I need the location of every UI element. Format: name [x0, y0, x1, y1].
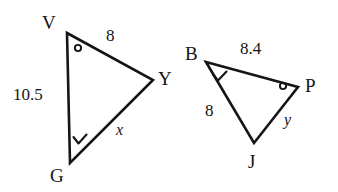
side-length-label-vy: 8 [106, 27, 115, 44]
vertex-label-j: J [248, 152, 255, 171]
triangle-bpj-outline [206, 62, 298, 143]
triangle-bpj-shape [206, 62, 298, 143]
vertex-label-g: G [50, 166, 64, 185]
side-length-label-gy-variable-x: x [116, 122, 123, 138]
circle-angle-mark-p [280, 83, 286, 89]
circle-angle-mark-v [75, 45, 81, 51]
geometry-figure-canvas: V Y G 8 10.5 x B P J 8.4 8 y [0, 0, 338, 192]
check-angle-mark-g [74, 135, 87, 144]
vertex-label-p: P [305, 76, 316, 95]
side-length-label-bj: 8 [205, 102, 214, 119]
vertex-label-v: V [42, 13, 56, 32]
vertex-label-b: B [185, 44, 198, 63]
side-length-label-vg: 10.5 [13, 86, 43, 103]
side-length-label-bp: 8.4 [240, 40, 261, 57]
side-length-label-pj-variable-y: y [284, 112, 291, 128]
vertex-label-y: Y [158, 69, 172, 88]
